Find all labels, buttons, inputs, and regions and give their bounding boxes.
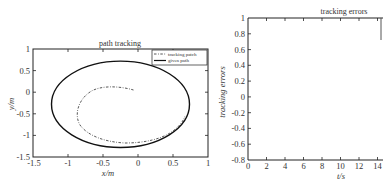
- svg-text:2: 2: [264, 161, 268, 171]
- svg-text:-1: -1: [64, 158, 71, 168]
- svg-text:10: 10: [336, 161, 345, 171]
- legend-given-label: given path: [168, 58, 189, 63]
- svg-text:0: 0: [246, 161, 250, 171]
- legend-tracking-label: tracking patch: [168, 52, 197, 57]
- y-tick-labels: 1 0.5 0 -0.5 -1 -1.5: [17, 44, 30, 162]
- svg-text:0.4: 0.4: [234, 60, 245, 70]
- chart-title: tracking errors: [321, 7, 368, 16]
- x-axis-label: t/s: [337, 171, 346, 181]
- svg-text:1: 1: [206, 158, 210, 168]
- y-axis-label: tracking errors: [217, 66, 227, 118]
- svg-text:14: 14: [373, 161, 382, 171]
- svg-text:0.6: 0.6: [234, 45, 245, 55]
- svg-text:0: 0: [136, 158, 140, 168]
- svg-text:1: 1: [26, 44, 30, 54]
- figure: path tracking -1.5 -1 -0.5 0 0.5 1: [0, 0, 383, 190]
- svg-text:6: 6: [301, 161, 305, 171]
- svg-text:-1: -1: [23, 130, 30, 140]
- svg-text:0.2: 0.2: [234, 76, 245, 86]
- svg-text:-0.8: -0.8: [232, 155, 245, 165]
- svg-text:-0.4: -0.4: [232, 123, 246, 133]
- path-tracking-chart: path tracking -1.5 -1 -0.5 0 0.5 1: [6, 39, 210, 178]
- x-tick-labels: 0 2 4 6 8 10 12 14: [246, 161, 383, 171]
- given-path-line: [52, 61, 190, 147]
- svg-text:-0.6: -0.6: [232, 139, 245, 149]
- svg-text:0: 0: [26, 87, 30, 97]
- chart-title: path tracking: [99, 39, 141, 48]
- svg-text:-1.5: -1.5: [17, 152, 30, 162]
- svg-text:0.5: 0.5: [19, 66, 30, 76]
- y-axis-label: y/m: [6, 98, 16, 111]
- x-axis-label: x/m: [101, 168, 114, 178]
- svg-text:-0.5: -0.5: [17, 109, 30, 119]
- svg-text:0.8: 0.8: [234, 29, 245, 39]
- svg-text:12: 12: [355, 161, 364, 171]
- svg-text:1: 1: [241, 13, 245, 23]
- svg-text:-0.2: -0.2: [232, 108, 245, 118]
- svg-text:8: 8: [320, 161, 324, 171]
- svg-text:4: 4: [283, 161, 288, 171]
- y-ticks: [33, 71, 208, 136]
- legend: tracking patch given path: [152, 50, 207, 65]
- y-tick-labels: 1 0.8 0.6 0.4 0.2 0 -0.2 -0.4 -0.6 -0.8: [232, 13, 246, 165]
- svg-text:0.5: 0.5: [168, 158, 179, 168]
- tracking-errors-chart: tracking errors 0 2: [217, 7, 383, 181]
- x-ticks: [267, 18, 378, 160]
- svg-text:-0.5: -0.5: [96, 158, 109, 168]
- svg-text:0: 0: [241, 92, 245, 102]
- x-tick-labels: -1.5 -1 -0.5 0 0.5 1: [27, 158, 210, 168]
